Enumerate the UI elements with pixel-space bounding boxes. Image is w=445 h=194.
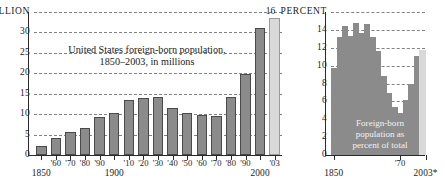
bar-y80: [80, 128, 91, 155]
bar-y60: [51, 138, 62, 155]
right-anno-line2: population as: [337, 129, 423, 140]
xtick-mark-5: [114, 155, 115, 160]
bar-y90: [94, 117, 105, 155]
xtick-label-y70: '70: [65, 159, 75, 168]
xtick-label-2003: 2003*: [414, 169, 438, 178]
xtick-label-y80: '80: [80, 159, 90, 168]
bar-y90: [240, 74, 251, 155]
xtick-label-y90: '90: [240, 159, 250, 168]
right-chart-annotation: Foreign-born population as percent of to…: [337, 118, 423, 151]
xtick-mark-2003: [426, 155, 427, 160]
bar-y03: [269, 18, 280, 155]
xtick-label-major-1900: 1900: [105, 169, 124, 178]
bar-2000: [255, 28, 266, 155]
millions-bar-chart-panel: United States foreign-born population, 1…: [0, 0, 292, 194]
xtick-label-major-1850: 1850: [32, 169, 51, 178]
xtick-label-1850: 1850: [324, 169, 343, 178]
xtick-mark-1850: [334, 155, 335, 160]
xtick-label-major-2000: 2000: [251, 169, 270, 178]
right-y-axis: [325, 12, 326, 155]
bar-y50: [182, 113, 193, 155]
xtick-label-y30: '30: [153, 159, 163, 168]
xtick-label-y50: '50: [182, 159, 192, 168]
left-x-axis: [28, 155, 282, 156]
percent-area-chart-panel: 16PERCENT 14 12 10 8 6 4 2 0 Foreign-bor…: [292, 0, 445, 194]
bar-series-millions: [34, 12, 282, 155]
bar-y30: [153, 97, 164, 155]
bar-1850: [36, 146, 47, 155]
right-anno-line1: Foreign-born: [337, 118, 423, 129]
right-unit-label: PERCENT: [281, 6, 327, 16]
xtick-label-y70: '70: [211, 159, 221, 168]
bar-1900: [109, 113, 120, 155]
left-plot-area: 35MILLION 30 25 20 15 10 5 0 1850'60'70'…: [34, 12, 282, 155]
xtick-label-y40: '40: [167, 159, 177, 168]
xtick-label-y10: '10: [124, 159, 134, 168]
xtick-label-y60: '60: [197, 159, 207, 168]
xtick-label-y60: '60: [51, 159, 61, 168]
xtick-label-y90: '90: [94, 159, 104, 168]
bar-y10: [124, 100, 135, 155]
xtick-mark-0: [41, 155, 42, 160]
right-x-axis: [325, 155, 425, 156]
right-plot-area: 16PERCENT 14 12 10 8 6 4 2 0 Foreign-bor…: [331, 12, 425, 155]
ytick-label-16: 16PERCENT: [266, 7, 327, 17]
left-unit-label: MILLION: [0, 6, 30, 16]
bar-y70: [211, 116, 222, 155]
bar-y70: [65, 132, 76, 155]
bar-y60: [197, 115, 208, 155]
xtick-mark-15: [260, 155, 261, 160]
xtick-label-70: '70: [395, 159, 405, 168]
xtick-label-y80: '80: [226, 159, 236, 168]
bar-y20: [138, 98, 149, 155]
chart-figure: United States foreign-born population, 1…: [0, 0, 445, 194]
left-y-axis: [28, 12, 29, 155]
bar-y80: [226, 97, 237, 155]
xtick-label-y03: '03: [269, 159, 279, 168]
right-anno-line3: percent of total: [337, 140, 423, 151]
ytick-label-35: 35MILLION: [0, 7, 30, 17]
xtick-label-y20: '20: [138, 159, 148, 168]
bar-y40: [167, 108, 178, 155]
